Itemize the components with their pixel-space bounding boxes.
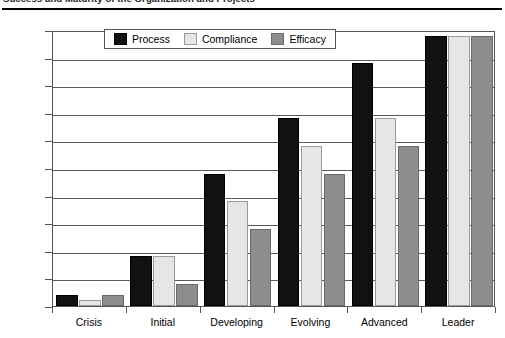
x-axis-tick-mark <box>421 307 422 313</box>
bar-process-initial <box>130 256 152 306</box>
bar-process-crisis <box>56 295 78 306</box>
chart-title: Success and Maturity of the Organization… <box>3 0 255 4</box>
bar-compliance-initial <box>153 256 175 306</box>
x-axis-tick-label: Evolving <box>274 316 348 328</box>
bar-efficacy-developing <box>250 229 272 306</box>
x-axis-tick-mark <box>126 307 127 313</box>
bar-compliance-evolving <box>301 146 323 306</box>
x-axis-tick-mark <box>200 307 201 313</box>
bar-efficacy-advanced <box>398 146 420 306</box>
x-axis-tick-mark <box>274 307 275 313</box>
x-axis-tick-label: Crisis <box>52 316 126 328</box>
bar-process-developing <box>204 174 226 306</box>
y-axis-tick-mark <box>45 59 52 60</box>
bar-compliance-crisis <box>79 300 101 306</box>
legend-entry-process: Process <box>114 33 170 45</box>
y-axis-tick-mark <box>45 31 52 32</box>
chart-figure: Success and Maturity of the Organization… <box>0 0 505 338</box>
bar-efficacy-evolving <box>324 174 346 306</box>
legend-swatch-icon <box>184 33 197 45</box>
bar-compliance-leader <box>448 36 470 306</box>
bar-efficacy-leader <box>471 36 493 306</box>
y-axis-tick-mark <box>45 224 52 225</box>
x-axis-tick-mark <box>495 307 496 313</box>
legend-entry-compliance: Compliance <box>184 33 257 45</box>
x-axis-tick-label: Developing <box>200 316 274 328</box>
y-axis-tick-mark <box>45 141 52 142</box>
legend-swatch-icon <box>271 33 284 45</box>
chart-title-clip: Success and Maturity of the Organization… <box>0 0 505 7</box>
x-axis-tick-label: Leader <box>421 316 495 328</box>
y-axis-tick-mark <box>45 279 52 280</box>
bar-compliance-developing <box>227 201 249 306</box>
bar-process-advanced <box>352 63 374 306</box>
x-axis-tick-mark <box>347 307 348 313</box>
legend-label: Compliance <box>202 33 257 45</box>
legend-swatch-icon <box>114 33 127 45</box>
y-axis-tick-mark <box>45 307 52 308</box>
y-axis-tick-mark <box>45 86 52 87</box>
legend-entry-efficacy: Efficacy <box>271 33 326 45</box>
legend-label: Efficacy <box>289 33 326 45</box>
plot-area <box>52 31 495 307</box>
y-axis-tick-mark <box>45 252 52 253</box>
y-axis-tick-mark <box>45 114 52 115</box>
y-axis-tick-mark <box>45 169 52 170</box>
bar-efficacy-crisis <box>102 295 124 306</box>
chart-legend: ProcessComplianceEfficacy <box>104 29 336 49</box>
bar-efficacy-initial <box>176 284 198 306</box>
bar-compliance-advanced <box>375 118 397 306</box>
legend-label: Process <box>132 33 170 45</box>
title-divider <box>2 8 502 10</box>
bar-process-leader <box>425 36 447 306</box>
x-axis-tick-label: Initial <box>126 316 200 328</box>
bar-process-evolving <box>278 118 300 306</box>
x-axis-tick-mark <box>52 307 53 313</box>
x-axis-tick-label: Advanced <box>347 316 421 328</box>
y-axis-tick-mark <box>45 197 52 198</box>
